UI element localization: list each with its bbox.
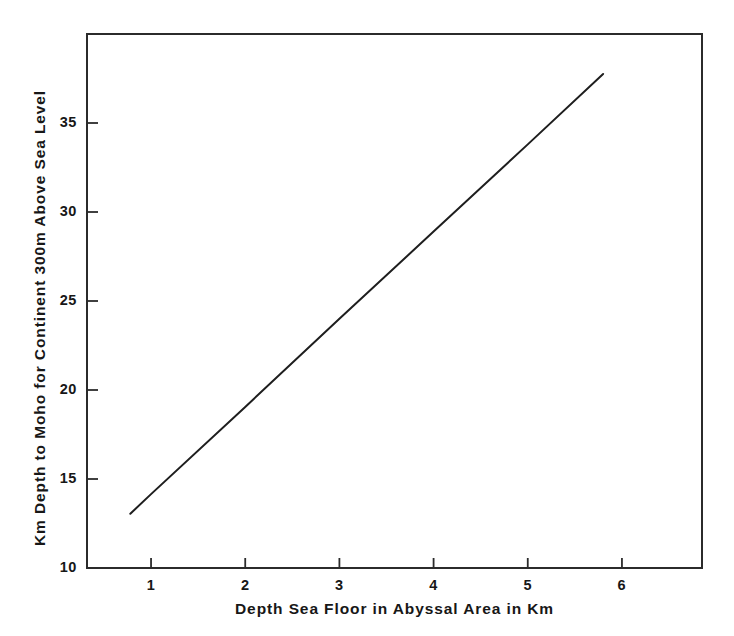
chart-plot-area — [0, 0, 734, 636]
x-tick-label: 2 — [233, 577, 257, 593]
y-tick-label: 10 — [43, 559, 77, 575]
data-series-group — [130, 74, 603, 514]
y-tick-label: 25 — [43, 292, 77, 308]
y-tick-label: 20 — [43, 381, 77, 397]
y-tick-label: 35 — [43, 114, 77, 130]
x-tick-label: 1 — [139, 577, 163, 593]
x-tick-label: 5 — [516, 577, 540, 593]
y-axis-label-container: Km Depth to Moho for Continent 300m Abov… — [22, 0, 58, 636]
x-axis-label: Depth Sea Floor in Abyssal Area in Km — [87, 600, 702, 618]
x-axis-ticks — [151, 558, 622, 568]
y-axis-label: Km Depth to Moho for Continent 300m Abov… — [22, 0, 58, 636]
data-line — [130, 74, 603, 514]
x-tick-label: 3 — [327, 577, 351, 593]
y-axis-ticks — [87, 123, 98, 568]
x-tick-label: 6 — [610, 577, 634, 593]
x-tick-label: 4 — [422, 577, 446, 593]
plot-frame — [87, 34, 702, 568]
chart-figure: Km Depth to Moho for Continent 300m Abov… — [0, 0, 734, 636]
y-tick-label: 30 — [43, 203, 77, 219]
y-tick-label: 15 — [43, 470, 77, 486]
